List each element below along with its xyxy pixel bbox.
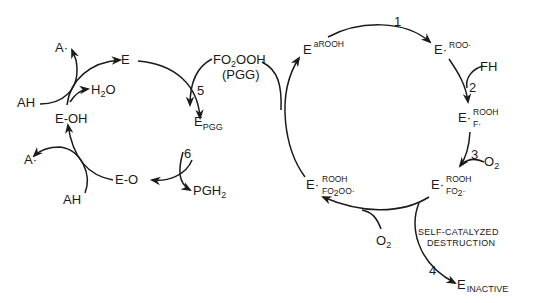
svg-text:ROOH: ROOH [322, 174, 348, 184]
o2-bottom: O2 [376, 233, 391, 250]
substrate-pgg-label: (PGG) [222, 67, 260, 82]
product-pgh2: PGH2 [193, 183, 226, 200]
enzyme-e-inactive: EINACTIVE [457, 277, 508, 294]
cyclooxygenase-cycle: EaROOH E·ROO· FH E· ROOH F· O2 E· ROOH F… [285, 14, 508, 294]
self-catalyzed-label-1: SELF-CATALYZED [418, 227, 499, 237]
step-5-label: 5 [197, 83, 204, 98]
substrate-ah-top: AH [17, 95, 35, 110]
self-catalyzed-label-2: DESTRUCTION [427, 238, 495, 248]
enzyme-e-arooh: EaROOH [303, 39, 344, 57]
step-6-label: 6 [184, 146, 191, 161]
product-h2o: H2O [91, 82, 116, 99]
substrate-pgg: FO2OOH (PGG) [213, 52, 281, 110]
svg-text:FO2·: FO2· [446, 186, 465, 198]
arrow-pgg-into-cyclooxygenase [262, 62, 281, 110]
svg-text:ROOH: ROOH [473, 107, 499, 117]
arrow-pgg-to-epgg [190, 59, 212, 105]
enzyme-e-pgg-label: EPGG [194, 114, 223, 132]
product-a-radical-top: A· [55, 40, 68, 55]
step-1-label: 1 [394, 14, 401, 29]
enzyme-e-roo: E·ROO· [434, 40, 471, 57]
arrow-to-e-arooh [285, 58, 305, 177]
enzyme-e-o-label: E-O [115, 172, 138, 187]
svg-text:FO2OO·: FO2OO· [322, 186, 355, 198]
svg-text:F·: F· [473, 119, 481, 129]
enzyme-e-f: E· ROOH F· [458, 107, 499, 129]
substrate-fh: FH [480, 59, 497, 74]
svg-text:ROOH: ROOH [446, 174, 472, 184]
enzyme-e-fo2oo: E· ROOH FO2OO· [306, 174, 355, 198]
arrow-ah-to-a-radical-top [40, 50, 77, 104]
svg-text:E·: E· [306, 177, 319, 192]
arrow-step-2 [449, 59, 468, 102]
product-a-radical-bottom: A· [24, 152, 37, 167]
prostaglandin-synthase-mechanism-diagram: E EPGG E-O E-OH AH A· H2O AH A· 5 6 PGH2… [0, 0, 537, 303]
step-3-label: 3 [471, 147, 478, 162]
arrow-ah-to-a-radical-bottom [34, 147, 87, 193]
arrow-o2-in-bottom [362, 210, 381, 229]
o2-top: O2 [484, 154, 499, 171]
arrow-to-h2o [70, 89, 88, 102]
enzyme-e-fo2: E· ROOH FO2· [431, 174, 472, 198]
step-4-label: 4 [429, 263, 436, 278]
peroxidase-cycle: E EPGG E-O E-OH AH A· H2O AH A· 5 6 PGH2 [17, 40, 226, 207]
svg-text:E·: E· [458, 110, 471, 125]
enzyme-e-oh-label: E-OH [55, 111, 88, 126]
arrow-to-e-fo2oo [323, 197, 429, 210]
enzyme-e-label: E [121, 52, 130, 67]
arrow-epgg-to-eo [152, 160, 192, 180]
substrate-ah-bottom: AH [63, 192, 81, 207]
svg-text:E·: E· [431, 177, 444, 192]
step-2-label: 2 [469, 80, 476, 95]
